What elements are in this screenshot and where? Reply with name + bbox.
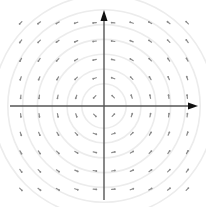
vector-arrow-tip-icon xyxy=(39,171,41,173)
vector-arrow-tip-icon xyxy=(19,79,21,81)
vector-arrow-tip-icon xyxy=(111,77,113,79)
vector-arrow-tip-icon xyxy=(77,152,79,154)
vector-arrow-tip-icon xyxy=(19,23,21,25)
vector-arrow-tip-icon xyxy=(38,97,40,99)
vector-arrow-tip-icon xyxy=(92,78,94,80)
vector-arrow-tip-icon xyxy=(37,23,39,25)
vector-field-plot xyxy=(0,0,206,207)
vector-arrow-tip-icon xyxy=(185,21,187,23)
y-axis-arrowhead-icon xyxy=(101,10,108,21)
vector-arrow-tip-icon xyxy=(58,171,60,173)
vector-arrow-tip-icon xyxy=(92,41,94,43)
vector-arrow-tip-icon xyxy=(39,153,41,155)
vector-arrow-tip-icon xyxy=(21,153,23,155)
vector-arrow-tip-icon xyxy=(132,151,134,153)
vector-field-diagram xyxy=(0,0,206,207)
vector-arrow-tip-icon xyxy=(132,188,134,190)
vector-arrow-tip-icon xyxy=(39,134,41,136)
vector-arrow-tip-icon xyxy=(169,150,171,152)
vector-arrow-tip-icon xyxy=(40,189,42,191)
vector-arrow-tip-icon xyxy=(129,58,131,60)
vector-arrow-tip-icon xyxy=(95,152,97,154)
vector-arrow-tip-icon xyxy=(74,60,76,62)
vector-arrow-tip-icon xyxy=(21,189,23,191)
vector-arrow-tip-icon xyxy=(167,58,169,60)
streamline-circle xyxy=(0,0,206,207)
vector-arrow-tip-icon xyxy=(95,189,97,191)
vector-arrow-tip-icon xyxy=(114,170,116,172)
vector-arrow-tip-icon xyxy=(167,76,169,78)
vector-arrow-tip-icon xyxy=(132,132,134,134)
vector-arrow-tip-icon xyxy=(56,60,58,62)
vector-arrow-tip-icon xyxy=(37,60,39,62)
vector-arrow-tip-icon xyxy=(21,171,23,173)
vector-arrow-tip-icon xyxy=(74,41,76,43)
vector-arrow-tip-icon xyxy=(148,39,150,41)
vector-arrow-tip-icon xyxy=(129,21,131,23)
vector-arrow-tip-icon xyxy=(187,169,189,171)
vector-arrow-tip-icon xyxy=(20,134,22,136)
vector-arrow-tip-icon xyxy=(186,57,188,59)
vector-arrow-tip-icon xyxy=(95,170,97,172)
vector-arrow-tip-icon xyxy=(187,131,189,133)
vector-arrow-tip-icon xyxy=(130,76,132,78)
vector-arrow-tip-icon xyxy=(95,115,97,117)
vector-arrow-tip-icon xyxy=(111,22,113,24)
vector-arrow-tip-icon xyxy=(76,134,78,136)
vector-arrow-tip-icon xyxy=(151,169,153,171)
vector-arrow-tip-icon xyxy=(168,94,170,96)
vector-arrow-tip-icon xyxy=(148,21,150,23)
vector-arrow-tip-icon xyxy=(187,113,189,115)
vector-arrow-tip-icon xyxy=(113,113,115,115)
vector-arrow-tip-icon xyxy=(148,58,150,60)
vector-arrow-tip-icon xyxy=(129,40,131,42)
vector-arrow-tip-icon xyxy=(185,39,187,41)
vector-arrow-tip-icon xyxy=(186,94,188,96)
vector-arrow-tip-icon xyxy=(111,59,113,61)
vector-arrow-tip-icon xyxy=(167,21,169,23)
vector-arrow-tip-icon xyxy=(77,189,79,191)
vector-arrow-tip-icon xyxy=(38,79,40,81)
vector-arrow-tip-icon xyxy=(76,116,78,118)
vector-arrow-tip-icon xyxy=(114,188,116,190)
vector-arrow-tip-icon xyxy=(55,23,57,25)
vector-arrow-tip-icon xyxy=(58,189,60,191)
vector-arrow-tip-icon xyxy=(187,150,189,152)
vector-arrow-tip-icon xyxy=(20,116,22,118)
vector-arrow-tip-icon xyxy=(132,169,134,171)
vector-arrow-tip-icon xyxy=(37,41,39,43)
vector-arrow-tip-icon xyxy=(56,41,58,43)
vector-arrow-tip-icon xyxy=(95,133,97,135)
vector-arrow-tip-icon xyxy=(77,170,79,172)
vector-arrow-tip-icon xyxy=(74,78,76,80)
vector-arrow-tip-icon xyxy=(58,134,60,136)
streamline-circles xyxy=(0,0,206,207)
vector-arrow-tip-icon xyxy=(149,94,151,96)
vector-arrow-tip-icon xyxy=(187,187,189,189)
vector-arrow-tip-icon xyxy=(186,76,188,78)
vector-arrow-tip-icon xyxy=(130,94,132,96)
vector-arrow-tip-icon xyxy=(150,131,152,133)
vector-arrow-tip-icon xyxy=(149,76,151,78)
vector-arrow-tip-icon xyxy=(131,113,133,115)
vector-arrow-tip-icon xyxy=(58,152,60,154)
vector-arrow-tip-icon xyxy=(92,22,94,24)
vector-arrow-tip-icon xyxy=(20,97,22,99)
vector-arrow-tip-icon xyxy=(19,60,21,62)
vector-arrow-tip-icon xyxy=(19,42,21,44)
vector-arrow-tip-icon xyxy=(168,131,170,133)
vector-arrow-tip-icon xyxy=(114,132,116,134)
vector-arrow-tip-icon xyxy=(168,113,170,115)
vector-arrow-tip-icon xyxy=(150,150,152,152)
vector-arrow-tip-icon xyxy=(56,79,58,81)
vector-arrow-tip-icon xyxy=(169,187,171,189)
vector-arrow-tip-icon xyxy=(150,113,152,115)
vector-arrow-tip-icon xyxy=(167,39,169,41)
x-axis-arrowhead-icon xyxy=(188,103,198,110)
vector-arrow-tip-icon xyxy=(57,116,59,118)
vector-arrow-tip-icon xyxy=(93,97,95,99)
vector-arrow-tip-icon xyxy=(169,169,171,171)
vector-arrow-tip-icon xyxy=(111,95,113,97)
vector-arrow-tip-icon xyxy=(57,97,59,99)
vector-arrow-tip-icon xyxy=(75,97,77,99)
